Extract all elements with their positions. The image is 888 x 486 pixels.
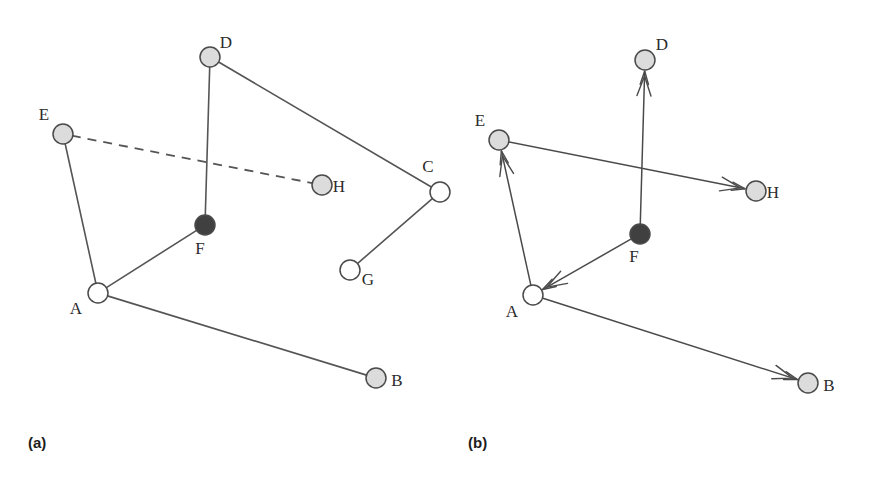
arrow-a-to-e-shaft: [501, 151, 531, 287]
node-b[interactable]: [366, 368, 386, 388]
arrow-e-to-h-shaft: [507, 142, 745, 189]
node-b-label-d: D: [656, 35, 668, 54]
node-d[interactable]: [200, 47, 220, 67]
node-b-d[interactable]: [635, 50, 655, 70]
node-b-label-h: H: [767, 183, 779, 202]
graph-canvas: ABCDEFGH ABDEFH (a) (b): [0, 0, 888, 486]
panel-a-caption: (a): [28, 434, 46, 451]
node-label-f: F: [195, 239, 204, 258]
panel-a-nodes: [53, 47, 450, 388]
node-b-label-b: B: [823, 376, 834, 395]
edge-a-b: [107, 296, 368, 376]
arrow-e-to-h: [507, 142, 745, 191]
node-c[interactable]: [430, 182, 450, 202]
arrow-f-to-d: [637, 71, 651, 226]
node-h[interactable]: [312, 175, 332, 195]
figure-root: ABCDEFGH ABDEFH (a) (b): [0, 0, 888, 486]
node-label-h: H: [333, 177, 345, 196]
node-g[interactable]: [340, 260, 360, 280]
node-b-label-e: E: [475, 111, 485, 130]
arrow-f-to-a: [543, 238, 633, 290]
arrow-a-to-e: [500, 151, 531, 287]
node-b-label-a: A: [506, 302, 519, 321]
node-label-d: D: [220, 33, 232, 52]
node-e[interactable]: [53, 124, 73, 144]
arrow-a-to-b-shaft: [541, 297, 798, 379]
node-b-f[interactable]: [630, 224, 650, 244]
arrow-a-to-b: [541, 297, 798, 379]
node-label-b: B: [391, 371, 402, 390]
node-b-a[interactable]: [523, 285, 543, 305]
edge-a-f: [106, 230, 198, 288]
panel-a-edges: [65, 62, 433, 376]
node-label-a: A: [70, 299, 83, 318]
edge-d-c: [218, 62, 432, 188]
panel-a-node-labels: ABCDEFGH: [39, 33, 434, 390]
arrow-f-to-a-shaft: [543, 238, 633, 290]
node-label-c: C: [422, 157, 433, 176]
node-a[interactable]: [88, 283, 108, 303]
node-b-h[interactable]: [746, 181, 766, 201]
arrow-f-to-d-shaft: [640, 71, 644, 226]
edge-e-a: [65, 143, 96, 284]
panel-b-caption: (b): [468, 434, 487, 451]
edge-e-h: [72, 136, 313, 184]
panel-b-arrows: [500, 71, 798, 380]
node-b-e[interactable]: [489, 130, 509, 150]
panel-b-node-labels: ABDEFH: [475, 35, 835, 395]
node-f[interactable]: [195, 215, 215, 235]
node-label-g: G: [362, 270, 374, 289]
edge-d-f: [205, 66, 209, 216]
edge-c-g: [357, 198, 433, 264]
panel-b-nodes: [489, 50, 818, 393]
node-label-e: E: [39, 105, 49, 124]
node-b-b[interactable]: [798, 373, 818, 393]
node-b-label-f: F: [629, 247, 638, 266]
